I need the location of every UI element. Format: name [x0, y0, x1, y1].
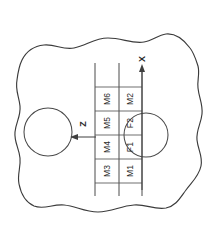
- plate-outline: [15, 34, 202, 212]
- figure-canvas: [0, 0, 222, 235]
- engineering-figure: X Z M6 M5 M4 M3 M2 F2 F1 M1: [0, 0, 222, 235]
